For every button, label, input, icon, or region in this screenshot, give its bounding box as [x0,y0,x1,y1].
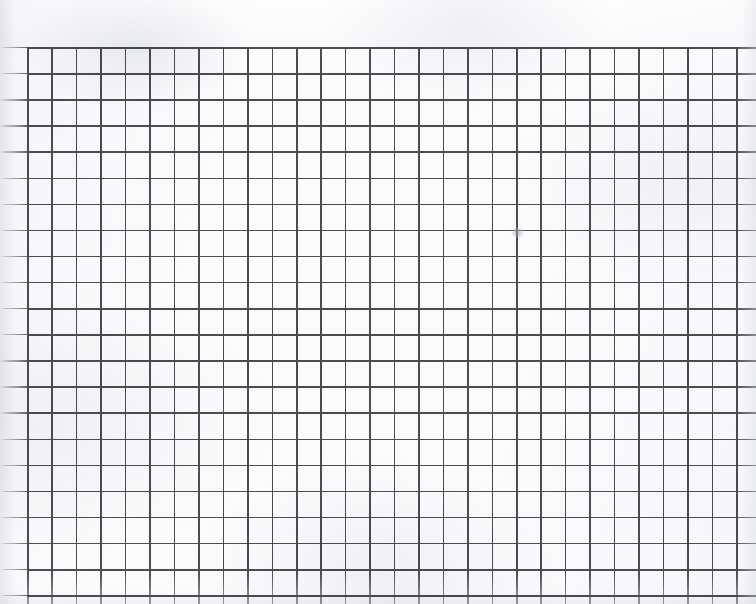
grid-line-horizontal [27,386,756,388]
grid-line-vertical [272,47,274,604]
grid-line-horizontal [27,73,756,75]
grid-line-horizontal [27,543,756,545]
grid-line-horizontal [27,47,756,49]
left-margin-rule-stub [0,569,29,570]
grid-line-horizontal [27,517,756,519]
left-margin-rule-stub [0,386,29,387]
grid-line-horizontal [27,230,756,232]
left-margin-rule-stub [0,543,29,544]
grid-line-vertical [394,47,396,604]
grid-line-vertical [100,47,102,604]
left-margin-rule-stub [0,99,29,100]
left-margin-rule-stub [0,256,29,257]
grid-line-horizontal [27,360,756,362]
left-margin-rule-stub [0,360,29,361]
left-margin-rule-stub [0,439,29,440]
top-margin-band [0,0,756,47]
grid-line-vertical [540,47,542,604]
grid-line-horizontal [27,334,756,336]
left-margin-rule-stub [0,230,29,231]
grid-line-horizontal [27,412,756,414]
grid-line-horizontal [27,491,756,493]
grid-line-vertical [125,47,127,604]
grid-line-vertical [589,47,591,604]
grid-line-vertical [687,47,689,604]
grid-line-horizontal [27,256,756,258]
grid-line-horizontal [27,308,756,310]
grid-line-horizontal [27,465,756,467]
grid-line-vertical [247,47,249,604]
grid-line-vertical [345,47,347,604]
left-margin-rule-stub [0,282,29,283]
grid-line-vertical [149,47,151,604]
left-margin-rule-stub [0,412,29,413]
left-margin-rule-stub [0,47,29,48]
grid-line-vertical [51,47,53,604]
grid-line-vertical [76,47,78,604]
grid-line-vertical [614,47,616,604]
graph-paper-grid [0,0,756,604]
left-margin-rule-stub [0,517,29,518]
grid-line-vertical [296,47,298,604]
grid-line-horizontal [27,151,756,153]
grid-line-vertical [369,47,371,604]
grid-line-horizontal [27,204,756,206]
grid-line-vertical [418,47,420,604]
left-margin-rule-stub [0,595,29,596]
grid-line-horizontal [27,282,756,284]
grid-line-vertical [320,47,322,604]
grid-line-vertical [492,47,494,604]
grid-line-vertical [565,47,567,604]
grid-line-horizontal [27,99,756,101]
grid-line-vertical [516,47,518,604]
left-margin-rule-stub [0,178,29,179]
left-margin-rule-stub [0,125,29,126]
grid-line-horizontal [27,125,756,127]
left-margin-rule-stub [0,204,29,205]
left-margin-rule-stub [0,73,29,74]
grid-line-vertical [443,47,445,604]
left-margin-rule-stub [0,465,29,466]
grid-line-vertical [638,47,640,604]
grid-line-vertical [174,47,176,604]
grid-line-vertical [198,47,200,604]
grid-line-vertical [663,47,665,604]
grid-line-horizontal [27,595,756,597]
grid-line-vertical [467,47,469,604]
grid-line-horizontal [27,178,756,180]
grid-line-vertical [712,47,714,604]
grid-line-vertical [736,47,738,604]
scanned-graph-paper-sheet [0,0,756,604]
grid-line-vertical [223,47,225,604]
grid-line-vertical [27,47,29,604]
left-margin-rule-stub [0,491,29,492]
left-margin-rule-stub [0,334,29,335]
grid-line-horizontal [27,569,756,571]
left-margin-rule-stub [0,308,29,309]
left-margin-rule-stub [0,151,29,152]
grid-line-horizontal [27,439,756,441]
